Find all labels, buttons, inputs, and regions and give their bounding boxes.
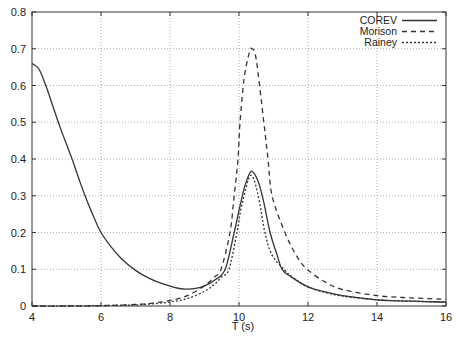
y-tick-label: 0.3	[11, 190, 26, 202]
y-tick-label: 0	[20, 300, 26, 312]
y-tick-label: 0.4	[11, 153, 26, 165]
y-tick-label: 0.6	[11, 80, 26, 92]
y-tick-label: 0.8	[11, 6, 26, 18]
y-tick-label: 0.5	[11, 116, 26, 128]
x-axis-label: T (s)	[232, 320, 254, 332]
y-tick-label: 0.1	[11, 263, 26, 275]
x-tick-label: 8	[167, 311, 173, 323]
x-tick-label: 6	[98, 311, 104, 323]
grid-lines	[32, 12, 446, 306]
y-tick-label: 0.7	[11, 43, 26, 55]
x-tick-label: 14	[371, 311, 383, 323]
x-tick-label: 12	[302, 311, 314, 323]
legend-label: Rainey	[364, 36, 397, 48]
y-axis-tick-labels: 00.10.20.30.40.50.60.70.8	[11, 6, 26, 312]
x-tick-label: 4	[29, 311, 35, 323]
legend: COREVMorisonRainey	[360, 14, 437, 48]
y-tick-label: 0.2	[11, 227, 26, 239]
line-chart: 00.10.20.30.40.50.60.70.8 46810121416 CO…	[0, 0, 458, 345]
x-tick-label: 16	[440, 311, 452, 323]
